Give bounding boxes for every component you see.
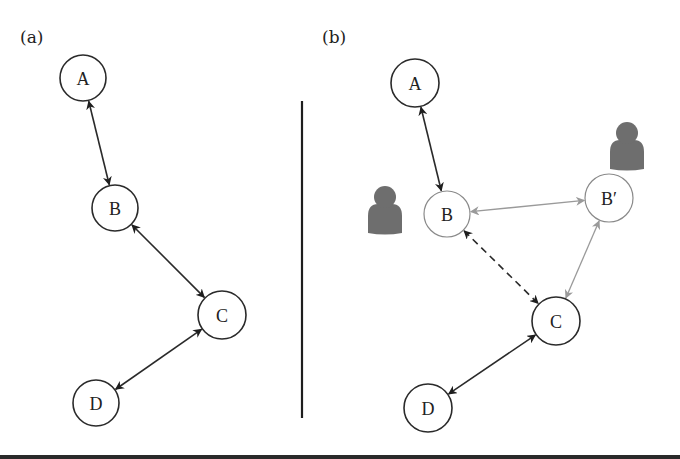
panel-b-label: (b) bbox=[322, 27, 346, 47]
node-bp: B′ bbox=[585, 174, 633, 222]
edge-a-b bbox=[421, 107, 441, 190]
node-label: B bbox=[441, 205, 453, 225]
panel-b-nodes: ABB′CD bbox=[391, 59, 633, 432]
node-label: D bbox=[90, 394, 103, 414]
node-label: B′ bbox=[601, 189, 617, 209]
panel-a-edges bbox=[89, 101, 205, 389]
node-label: D bbox=[422, 399, 435, 419]
edge-a-b bbox=[89, 101, 110, 184]
edge-b-c bbox=[132, 225, 204, 297]
node-c: C bbox=[532, 297, 580, 345]
node-b: B bbox=[424, 191, 470, 237]
person-icon bbox=[610, 122, 644, 171]
panel-a-nodes: ABCD bbox=[60, 55, 246, 426]
node-c: C bbox=[198, 291, 246, 339]
edge-c-d bbox=[116, 329, 202, 389]
edge-b-c bbox=[464, 231, 538, 304]
edge-b-bp bbox=[471, 200, 584, 211]
panel-b-edges bbox=[421, 107, 599, 394]
node-b: B bbox=[92, 185, 138, 231]
edge-bp-c bbox=[566, 221, 599, 298]
edge-c-d bbox=[449, 335, 536, 394]
diagram-canvas: (a) ABCD (b) ABB′CD bbox=[0, 0, 680, 459]
bottom-rule bbox=[0, 455, 680, 459]
node-label: C bbox=[216, 306, 228, 326]
panel-a: (a) ABCD bbox=[20, 27, 246, 426]
node-label: A bbox=[409, 74, 422, 94]
person-icon bbox=[368, 186, 402, 235]
node-label: A bbox=[77, 69, 90, 89]
panel-a-label: (a) bbox=[20, 27, 43, 47]
node-label: C bbox=[550, 312, 562, 332]
node-d: D bbox=[73, 380, 119, 426]
panel-b: (b) ABB′CD bbox=[322, 27, 644, 432]
node-a: A bbox=[60, 55, 106, 101]
node-a: A bbox=[391, 59, 439, 107]
node-label: B bbox=[109, 199, 121, 219]
node-d: D bbox=[404, 384, 452, 432]
